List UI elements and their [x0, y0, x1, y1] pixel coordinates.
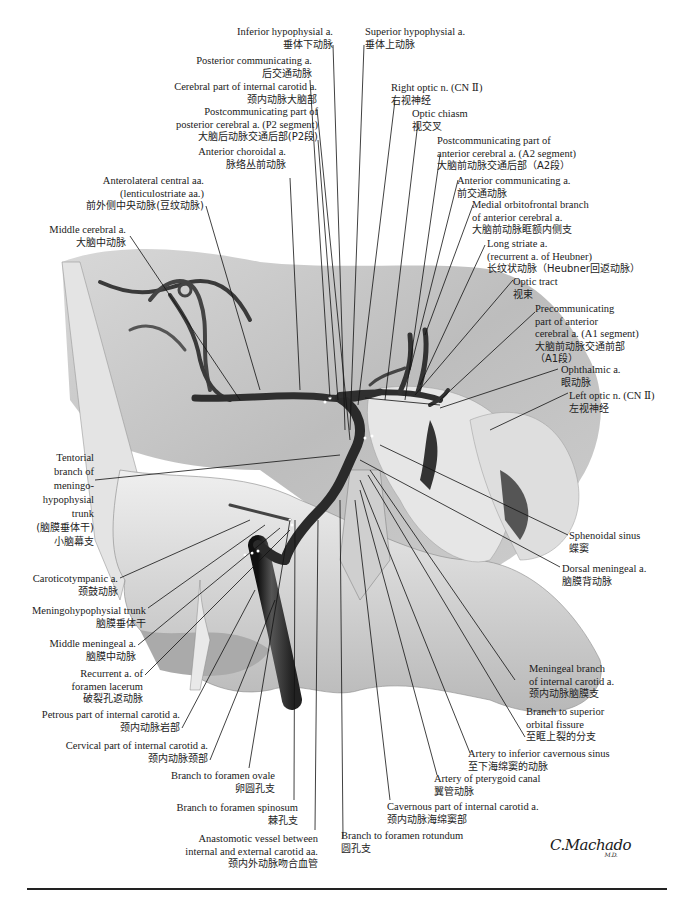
label-anterolateral-central-aa: Anterolateral central aa. (lenticulostri… — [86, 175, 204, 213]
label-inferior-hypophysial-a: Inferior hypophysial a. 垂体下动脉 — [237, 26, 333, 51]
label-zh: 颈内动脉大脑部 — [174, 94, 317, 107]
label-long-striate-a: Long striate a. (recurrent a. of Heubner… — [487, 238, 640, 276]
label-zh: 大脑前动脉交通前部 — [535, 341, 639, 354]
label-en: Optic chiasm — [412, 108, 468, 121]
label-medial-orbitofrontal-branch: Medial orbitofrontal branch of anterior … — [472, 199, 589, 237]
label-en: Meningohypophysial trunk — [32, 605, 146, 618]
label-zh: 后交通动脉 — [196, 68, 312, 81]
label-en: hypophysial — [36, 493, 94, 507]
label-ophthalmic-a: Ophthalmic a. 眼动脉 — [561, 364, 620, 389]
label-posterior-communicating-a: Posterior communicating a. 后交通动脉 — [196, 55, 312, 80]
label-middle-meningeal-a: Middle meningeal a. 脑膜中动脉 — [49, 638, 136, 663]
label-a2-segment: Postcommunicating part of anterior cereb… — [437, 135, 576, 173]
label-artery-inferior-cavernous-sinus: Artery to inferior cavernous sinus 至下海绵窦… — [468, 748, 610, 773]
label-zh: 颈内动脉颈部 — [66, 753, 208, 766]
label-recurrent-a-foramen-lacerum: Recurrent a. of foramen lacerum 破裂孔返动脉 — [72, 668, 143, 706]
label-zh: 脉络丛前动脉 — [198, 159, 286, 172]
bottom-rule-divider — [27, 888, 667, 890]
label-zh: 颈内动脉脑膜支 — [529, 688, 614, 701]
label-artery-pterygoid-canal: Artery of pterygoid canal 翼管动脉 — [434, 773, 540, 798]
label-en: branch of — [36, 465, 94, 479]
label-en: Artery of pterygoid canal — [434, 773, 540, 786]
label-right-optic-n: Right optic n. (CN Ⅱ) 右视神经 — [391, 82, 482, 107]
label-en: Right optic n. (CN Ⅱ) — [391, 82, 482, 95]
label-en: Petrous part of internal carotid a. — [42, 709, 180, 722]
label-en: Anterior choroidal a. — [198, 146, 286, 159]
label-en: Anterolateral central aa. — [86, 175, 204, 188]
label-zh: 视束 — [513, 289, 558, 302]
label-en: Branch to foramen rotundum — [341, 830, 463, 843]
label-en: Left optic n. (CN Ⅱ) — [569, 390, 655, 403]
label-zh: 大脑前动脉交通后部（A2段） — [437, 160, 576, 173]
label-zh: 前外侧中央动脉(豆纹动脉) — [86, 200, 204, 213]
label-zh: 长纹状动脉（Heubner回返动脉） — [487, 263, 640, 276]
label-branch-foramen-ovale: Branch to foramen ovale 卵圆孔支 — [171, 770, 275, 795]
label-en: Branch to foramen spinosum — [176, 802, 298, 815]
label-zh: 翼管动脉 — [434, 786, 540, 799]
label-en: Sphenoidal sinus — [569, 530, 640, 543]
label-anastomotic-vessel: Anastomotic vessel between internal and … — [185, 833, 318, 871]
label-zh: 左视神经 — [569, 403, 655, 416]
label-en: Meningeal branch — [529, 663, 614, 676]
label-zh: 视交叉 — [412, 121, 468, 134]
label-tentorial-branch: Tentorial branch of meningo- hypophysial… — [36, 451, 94, 549]
label-en: Recurrent a. of — [72, 668, 143, 681]
label-en: Dorsal meningeal a. — [562, 563, 646, 576]
label-zh: (脑膜垂体干) — [36, 521, 94, 535]
label-anterior-communicating-a: Anterior communicating a. 前交通动脉 — [457, 175, 570, 200]
label-zh: 大脑后动脉交通后部(P2段) — [176, 131, 318, 144]
label-zh: 颈内动脉海绵窦部 — [387, 814, 539, 827]
label-en: of anterior cerebral a. — [472, 212, 589, 225]
label-zh: 棘孔支 — [176, 815, 298, 828]
label-zh: 蝶窦 — [569, 543, 640, 556]
label-en: Tentorial — [36, 451, 94, 465]
label-en: part of anterior — [535, 316, 639, 329]
label-petrous-part-ica: Petrous part of internal carotid a. 颈内动脉… — [42, 709, 180, 734]
label-zh: 眼动脉 — [561, 377, 620, 390]
label-en: Branch to foramen ovale — [171, 770, 275, 783]
label-en: cerebral a. (A1 segment) — [535, 328, 639, 341]
label-en: meningo- — [36, 479, 94, 493]
label-en: Cervical part of internal carotid a. — [66, 740, 208, 753]
label-optic-tract: Optic tract 视束 — [513, 276, 558, 301]
label-caroticotympanic-a: Caroticotympanic a. 颈鼓动脉 — [33, 573, 118, 598]
label-en: Posterior communicating a. — [196, 55, 312, 68]
label-cervical-part-ica: Cervical part of internal carotid a. 颈内动… — [66, 740, 208, 765]
signature-text: C.Machado — [550, 836, 631, 854]
label-zh: 垂体上动脉 — [365, 39, 465, 52]
label-zh: 小脑幕支 — [36, 535, 94, 549]
label-en: anterior cerebral a. (A2 segment) — [437, 148, 576, 161]
label-en: Optic tract — [513, 276, 558, 289]
label-anterior-choroidal-a: Anterior choroidal a. 脉络丛前动脉 — [198, 146, 286, 171]
label-en: Precommunicating — [535, 303, 639, 316]
label-en: Inferior hypophysial a. — [237, 26, 333, 39]
label-en: of internal carotid a. — [529, 676, 614, 689]
label-en: foramen lacerum — [72, 681, 143, 694]
label-en: trunk — [36, 507, 94, 521]
label-en: Cerebral part of internal carotid a. — [174, 81, 317, 94]
label-middle-cerebral-a: Middle cerebral a. 大脑中动脉 — [49, 224, 126, 249]
label-en: (recurrent a. of Heubner) — [487, 251, 640, 264]
label-branch-superior-orbital-fissure: Branch to superior orbital fissure 至眶上裂的… — [526, 706, 604, 744]
label-optic-chiasm: Optic chiasm 视交叉 — [412, 108, 468, 133]
label-en: Ophthalmic a. — [561, 364, 620, 377]
label-cavernous-part-ica: Cavernous part of internal carotid a. 颈内… — [387, 801, 539, 826]
label-en: Middle meningeal a. — [49, 638, 136, 651]
label-zh: 破裂孔返动脉 — [72, 693, 143, 706]
label-zh: 大脑中动脉 — [49, 237, 126, 250]
label-branch-foramen-spinosum: Branch to foramen spinosum 棘孔支 — [176, 802, 298, 827]
label-branch-foramen-rotundum: Branch to foramen rotundum 圆孔支 — [341, 830, 463, 855]
label-en: Anterior communicating a. — [457, 175, 570, 188]
label-a1-segment: Precommunicating part of anterior cerebr… — [535, 303, 639, 366]
label-superior-hypophysial-a: Superior hypophysial a. 垂体上动脉 — [365, 26, 465, 51]
label-en: Medial orbitofrontal branch — [472, 199, 589, 212]
label-meningohypophysial-trunk: Meningohypophysial trunk 脑膜垂体干 — [32, 605, 146, 630]
anatomy-figure: Inferior hypophysial a. 垂体下动脉 Posterior … — [0, 0, 684, 905]
label-zh: 脑膜中动脉 — [49, 651, 136, 664]
label-dorsal-meningeal-a: Dorsal meningeal a. 脑膜背动脉 — [562, 563, 646, 588]
label-en: orbital fissure — [526, 719, 604, 732]
label-meningeal-branch-ica: Meningeal branch of internal carotid a. … — [529, 663, 614, 701]
label-en: Anastomotic vessel between — [185, 833, 318, 846]
label-zh: 颈鼓动脉 — [33, 586, 118, 599]
label-en: posterior cerebral a. (P2 segment) — [176, 119, 318, 132]
